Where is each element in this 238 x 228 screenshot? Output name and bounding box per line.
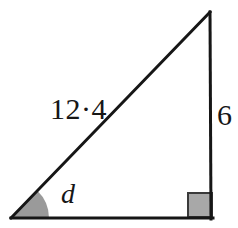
hypotenuse-length-label: 12·4 [50, 94, 107, 124]
vertical-side [210, 12, 211, 219]
vertical-side-length-label: 6 [217, 100, 232, 130]
angle-label: d [61, 180, 75, 208]
triangle-drawing [0, 0, 238, 228]
right-angle-square [188, 193, 212, 217]
geometry-figure: 12·4 6 d [0, 0, 238, 228]
